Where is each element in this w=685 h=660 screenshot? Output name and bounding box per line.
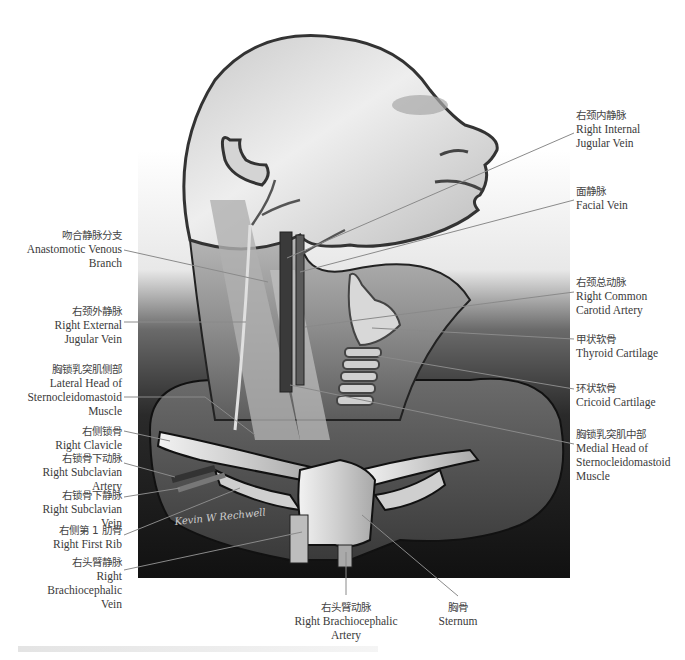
label-en: Lateral Head of (20, 376, 122, 390)
label-en: Jugular Vein (20, 332, 122, 346)
label-right-common-carotid-artery: 右颈总动脉Right CommonCarotid Artery (576, 275, 681, 317)
label-en: Anastomotic Venous (20, 242, 122, 256)
label-zh: 面静脉 (576, 184, 681, 198)
label-zh: 右头臂静脉 (20, 555, 122, 569)
label-zh: 右头臂动脉 (270, 600, 422, 614)
label-lateral-head-scm: 胸锁乳突肌侧部Lateral Head ofSternocleidomastoi… (20, 362, 122, 418)
label-en: Right Brachiocephalic (20, 569, 122, 597)
label-right-subclavian-artery: 右锁骨下动脉Right Subclavian Artery (20, 451, 122, 493)
label-zh: 胸锁乳突肌侧部 (20, 362, 122, 376)
label-right-brachiocephalic-artery: 右头臂动脉Right BrachiocephalicArtery (270, 600, 422, 642)
label-medial-head-scm: 胸锁乳突肌中部Medial Head ofSternocleidomastoid… (576, 427, 681, 483)
label-zh: 胸锁乳突肌中部 (576, 427, 681, 441)
label-en: Medial Head of (576, 441, 681, 455)
label-zh: 胸骨 (420, 600, 496, 614)
label-right-first-rib: 右侧第 1 肋骨Right First Rib (20, 523, 122, 551)
label-en: Right Clavicle (20, 438, 122, 452)
label-en: Muscle (20, 404, 122, 418)
label-zh: 右锁骨下动脉 (20, 451, 122, 465)
label-en: Right First Rib (20, 537, 122, 551)
label-en: Right Brachiocephalic (270, 614, 422, 628)
caption-fragment (18, 646, 378, 652)
sternum (298, 460, 375, 547)
label-facial-vein: 面静脉Facial Vein (576, 184, 681, 212)
right-brachiocephalic-vein (290, 515, 308, 563)
label-zh: 右颈外静脉 (20, 304, 122, 318)
label-en: Sternocleidomastoid (576, 455, 681, 469)
label-zh: 右锁骨下静脉 (20, 488, 122, 502)
right-brachiocephalic-artery (338, 545, 352, 567)
label-right-external-jugular-vein: 右颈外静脉Right ExternalJugular Vein (20, 304, 122, 346)
label-zh: 右颈内静脉 (576, 108, 681, 122)
internal-jugular-vein (280, 232, 292, 392)
label-thyroid-cartilage: 甲状软骨Thyroid Cartilage (576, 332, 681, 360)
label-en: Cricoid Cartilage (576, 395, 681, 409)
label-zh: 甲状软骨 (576, 332, 681, 346)
label-right-clavicle: 右侧锁骨Right Clavicle (20, 424, 122, 452)
label-en: Sternum (420, 614, 496, 628)
label-en: Artery (270, 628, 422, 642)
common-carotid-artery (296, 235, 304, 385)
label-en: Right External (20, 318, 122, 332)
label-zh: 右侧第 1 肋骨 (20, 523, 122, 537)
label-zh: 吻合静脉分支 (20, 228, 122, 242)
label-zh: 环状软骨 (576, 381, 681, 395)
label-right-brachiocephalic-vein: 右头臂静脉Right BrachiocephalicVein (20, 555, 122, 611)
label-zh: 右颈总动脉 (576, 275, 681, 289)
label-en: Right Common (576, 289, 681, 303)
label-en: Carotid Artery (576, 303, 681, 317)
label-en: Sternocleidomastoid (20, 390, 122, 404)
label-en: Thyroid Cartilage (576, 346, 681, 360)
label-zh: 右侧锁骨 (20, 424, 122, 438)
label-en: Vein (20, 597, 122, 611)
label-sternum: 胸骨Sternum (420, 600, 496, 628)
label-en: Branch (20, 256, 122, 270)
label-en: Muscle (576, 469, 681, 483)
label-en: Jugular Vein (576, 136, 681, 150)
label-right-internal-jugular-vein: 右颈内静脉Right InternalJugular Vein (576, 108, 681, 150)
label-cricoid-cartilage: 环状软骨Cricoid Cartilage (576, 381, 681, 409)
label-en: Facial Vein (576, 198, 681, 212)
label-anastomotic-venous-branch: 吻合静脉分支Anastomotic VenousBranch (20, 228, 122, 270)
label-en: Right Internal (576, 122, 681, 136)
